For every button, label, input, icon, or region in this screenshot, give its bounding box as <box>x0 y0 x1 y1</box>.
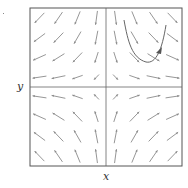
arrowhead-icon <box>72 77 74 79</box>
stray-mark <box>3 13 4 14</box>
trajectory-arrowhead-icon <box>156 47 162 54</box>
arrowhead-icon <box>137 77 139 79</box>
x-axis-label: x <box>103 170 109 183</box>
arrowhead-icon <box>72 95 74 97</box>
trajectory-curve <box>124 20 166 62</box>
y-axis-label: y <box>17 80 23 93</box>
arrowhead-icon <box>137 95 139 97</box>
direction-field-plot <box>0 0 188 188</box>
